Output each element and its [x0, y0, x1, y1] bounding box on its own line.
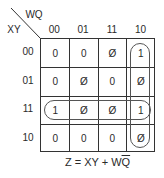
map-cell: 0 [70, 39, 99, 68]
row-header: 00 [18, 46, 38, 58]
column-header: 11 [98, 24, 127, 36]
map-cell: 0 [70, 125, 99, 154]
map-cell: Ø [70, 68, 99, 97]
map-cell: 0 [41, 68, 70, 97]
map-cell: 0 [41, 39, 70, 68]
map-cell: Ø [98, 39, 127, 68]
column-header: 00 [40, 24, 69, 36]
row-header: 01 [18, 75, 38, 87]
map-cell: 0 [41, 125, 70, 154]
boolean-expression: Z = XY + WQ [40, 156, 155, 168]
map-cell: 0 [98, 125, 127, 154]
row-variable-label: XY [4, 24, 24, 36]
karnaugh-map-grid: 0 0 Ø 1 0 Ø 0 Ø 1 Ø Ø 1 0 0 0 Ø [40, 38, 155, 152]
map-cell: 0 [98, 68, 127, 97]
group-loop-wqbar [130, 43, 150, 148]
column-header: 10 [126, 24, 155, 36]
column-header: 01 [69, 24, 98, 36]
q-bar: Q [122, 156, 131, 168]
row-header: 11 [18, 103, 38, 115]
column-variable-label: WQ [24, 9, 44, 21]
row-header: 10 [18, 132, 38, 144]
